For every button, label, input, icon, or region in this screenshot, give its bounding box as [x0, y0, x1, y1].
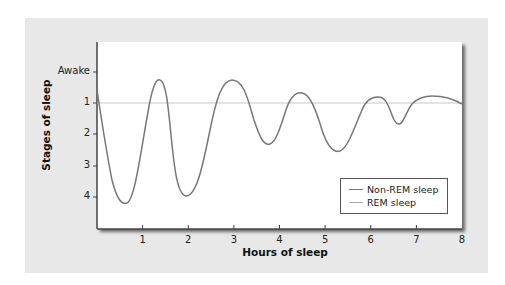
- x-tick-label-5: 5: [315, 234, 335, 245]
- legend-item-non-rem: Non-REM sleep: [349, 184, 439, 195]
- y-tick-label-awake: Awake: [30, 65, 90, 76]
- y-tick-label-2: 2: [30, 127, 90, 138]
- legend-label-non-rem: Non-REM sleep: [367, 184, 439, 195]
- x-tick-label-6: 6: [361, 234, 381, 245]
- y-tick-label-4: 4: [30, 190, 90, 201]
- y-axis-title: Stages of sleep: [40, 65, 52, 185]
- x-tick-label-3: 3: [224, 234, 244, 245]
- x-tick-label-4: 4: [270, 234, 290, 245]
- chart-svg: [0, 0, 505, 285]
- x-tick-label-7: 7: [406, 234, 426, 245]
- legend-swatch-rem-icon: [349, 202, 363, 204]
- x-tick-label-1: 1: [133, 234, 153, 245]
- legend: Non-REM sleep REM sleep: [340, 178, 448, 214]
- x-tick-label-8: 8: [452, 234, 472, 245]
- legend-label-rem: REM sleep: [367, 197, 416, 208]
- legend-swatch-non-rem-icon: [349, 189, 363, 191]
- y-tick-label-3: 3: [30, 159, 90, 170]
- x-axis-title: Hours of sleep: [230, 246, 340, 258]
- x-tick-label-2: 2: [178, 234, 198, 245]
- legend-item-rem: REM sleep: [349, 197, 416, 208]
- y-tick-label-1: 1: [30, 96, 90, 107]
